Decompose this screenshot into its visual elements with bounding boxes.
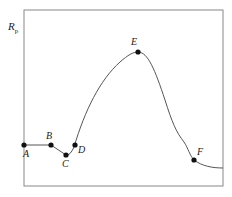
point-a-marker: [21, 142, 26, 147]
point-e-label: E: [131, 37, 137, 47]
y-axis-label: Rp: [8, 20, 18, 35]
point-f-label: F: [197, 147, 203, 157]
point-a-label: A: [23, 149, 29, 159]
point-c-marker: [63, 152, 68, 157]
point-b-marker: [48, 142, 53, 147]
chart-canvas: [0, 0, 232, 197]
point-d-marker: [72, 142, 77, 147]
point-b-label: B: [46, 131, 52, 141]
point-f-marker: [191, 157, 196, 162]
point-c-label: C: [62, 159, 69, 169]
point-e-marker: [135, 49, 140, 54]
rp-curve: [24, 52, 223, 168]
point-d-label: D: [78, 145, 85, 155]
